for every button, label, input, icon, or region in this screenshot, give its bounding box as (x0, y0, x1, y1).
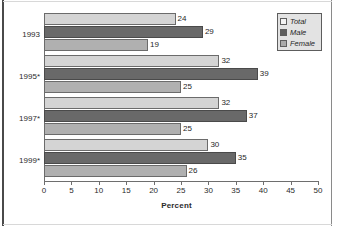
bar-1999-total[interactable] (44, 139, 208, 151)
x-tick-label-15: 15 (122, 186, 131, 195)
legend-item-female[interactable]: Female (280, 38, 319, 48)
bar-value-1995-total: 32 (219, 54, 230, 67)
x-tick-label-35: 35 (231, 186, 240, 195)
x-tick-40 (263, 181, 264, 185)
bar-value-1995-female: 25 (181, 80, 192, 93)
bar-value-1993-female: 19 (148, 38, 159, 51)
bar-1999-female[interactable] (44, 165, 187, 177)
x-tick-35 (236, 181, 237, 185)
x-tick-30 (208, 181, 209, 185)
x-tick-45 (291, 181, 292, 185)
y-tick-label-1997: 1997* (0, 114, 40, 123)
x-tick-label-5: 5 (69, 186, 73, 195)
x-tick-label-45: 45 (286, 186, 295, 195)
x-tick-label-40: 40 (259, 186, 268, 195)
legend-swatch-female-icon (280, 40, 287, 47)
x-tick-label-20: 20 (149, 186, 158, 195)
bar-row-1997-male: 37 (44, 110, 318, 122)
legend-label-total: Total (290, 17, 306, 26)
bar-row-1995-total: 32 (44, 55, 318, 67)
bar-group-1997: 32 37 25 (44, 97, 318, 139)
x-axis-title-text: Percent (161, 201, 192, 210)
bar-1995-female[interactable] (44, 81, 181, 93)
bar-1997-male[interactable] (44, 110, 247, 122)
bar-group-1999: 30 35 26 (44, 139, 318, 181)
legend-item-male[interactable]: Male (280, 27, 319, 37)
y-tick-label-1999: 1999* (0, 156, 40, 165)
x-tick-label-0: 0 (42, 186, 46, 195)
x-tick-label-30: 30 (204, 186, 213, 195)
legend-label-male: Male (290, 28, 306, 37)
bar-row-1997-total: 32 (44, 97, 318, 109)
x-tick-10 (99, 181, 100, 185)
x-tick-15 (126, 181, 127, 185)
bar-1995-total[interactable] (44, 55, 219, 67)
bar-value-1997-female: 25 (181, 122, 192, 135)
x-tick-label-10: 10 (94, 186, 103, 195)
frame-top-border (3, 1, 332, 2)
bar-row-1995-male: 39 (44, 68, 318, 80)
legend-swatch-male-icon (280, 29, 287, 36)
bar-row-1995-female: 25 (44, 81, 318, 93)
bar-1993-female[interactable] (44, 39, 148, 51)
bar-1997-female[interactable] (44, 123, 181, 135)
bar-1993-male[interactable] (44, 26, 203, 38)
x-tick-5 (71, 181, 72, 185)
x-tick-50 (318, 181, 319, 185)
bar-1999-male[interactable] (44, 152, 236, 164)
bar-row-1999-total: 30 (44, 139, 318, 151)
bar-chart-figure: 24 29 19 32 39 25 (0, 0, 337, 226)
x-axis-title: Percent (0, 201, 337, 210)
x-tick-0 (44, 181, 45, 185)
y-tick-label-1995: 1995* (0, 72, 40, 81)
bar-1993-total[interactable] (44, 13, 176, 25)
x-tick-25 (181, 181, 182, 185)
bar-group-1995: 32 39 25 (44, 55, 318, 97)
legend-item-total[interactable]: Total (280, 16, 319, 26)
legend-label-female: Female (290, 39, 315, 48)
x-tick-label-25: 25 (177, 186, 186, 195)
x-tick-20 (154, 181, 155, 185)
bar-value-1993-total: 24 (176, 12, 187, 25)
bar-value-1999-male: 35 (236, 151, 247, 164)
bar-value-1997-total: 32 (219, 96, 230, 109)
bar-row-1999-female: 26 (44, 165, 318, 177)
bar-row-1999-male: 35 (44, 152, 318, 164)
bar-1997-total[interactable] (44, 97, 219, 109)
bar-value-1993-male: 29 (203, 25, 214, 38)
bar-value-1997-male: 37 (247, 109, 258, 122)
bar-value-1999-total: 30 (208, 138, 219, 151)
legend-swatch-total-icon (280, 18, 287, 25)
bar-value-1999-female: 26 (187, 164, 198, 177)
y-tick-label-1993: 1993 (0, 30, 40, 39)
bar-value-1995-male: 39 (258, 67, 269, 80)
frame-right-border (331, 0, 332, 226)
chart-legend: Total Male Female (277, 13, 322, 51)
x-tick-label-50: 50 (314, 186, 323, 195)
frame-bottom-border (3, 224, 332, 225)
bar-1995-male[interactable] (44, 68, 258, 80)
bar-row-1997-female: 25 (44, 123, 318, 135)
